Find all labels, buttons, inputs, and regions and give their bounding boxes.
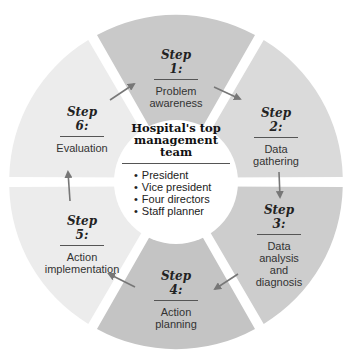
step-1-number: Step 1:: [154, 48, 198, 80]
step-5-desc-line-2: implementation: [40, 263, 124, 275]
step-3-number: Step 3:: [257, 203, 301, 235]
center-title: Hospital's top management team: [122, 122, 230, 164]
step-3-desc-line-3: and: [243, 264, 315, 276]
team-member: President: [134, 169, 236, 181]
step-6-number: Step 6:: [60, 105, 104, 137]
center-title-line-3: team: [122, 146, 230, 158]
step-5-label: Step 5: Action implementation: [40, 214, 124, 275]
team-member: Four directors: [134, 193, 236, 205]
step-2-desc-line-2: gathering: [240, 155, 312, 167]
step-6-desc-line-1: Evaluation: [46, 142, 118, 154]
step-1-desc-line-2: awareness: [136, 97, 216, 109]
step-1-desc-line-1: Problem: [136, 85, 216, 97]
step-3-desc-line-4: diagnosis: [243, 276, 315, 288]
step-3-desc-line-1: Data: [243, 240, 315, 252]
step-5-desc-line-1: Action: [40, 251, 124, 263]
step-3-label: Step 3: Data analysis and diagnosis: [243, 203, 315, 288]
step-2-desc-line-1: Data: [240, 143, 312, 155]
step-4-label: Step 4: Action planning: [136, 269, 216, 330]
arrow-step2-to-step3: [279, 172, 280, 197]
step-4-desc-line-1: Action: [136, 306, 216, 318]
step-2-number: Step 2:: [254, 106, 298, 138]
step-4-desc-line-2: planning: [136, 318, 216, 330]
step-2-label: Step 2: Data gathering: [240, 106, 312, 167]
team-member-list: President Vice president Four directors …: [116, 169, 236, 217]
step-5-number: Step 5:: [60, 214, 104, 246]
center-team-block: Hospital's top management team President…: [116, 122, 236, 217]
step-6-label: Step 6: Evaluation: [46, 105, 118, 154]
step-3-desc-line-2: analysis: [243, 252, 315, 264]
step-1-label: Step 1: Problem awareness: [136, 48, 216, 109]
team-member: Vice president: [134, 181, 236, 193]
step-4-number: Step 4:: [154, 269, 198, 301]
team-member: Staff planner: [134, 205, 236, 217]
